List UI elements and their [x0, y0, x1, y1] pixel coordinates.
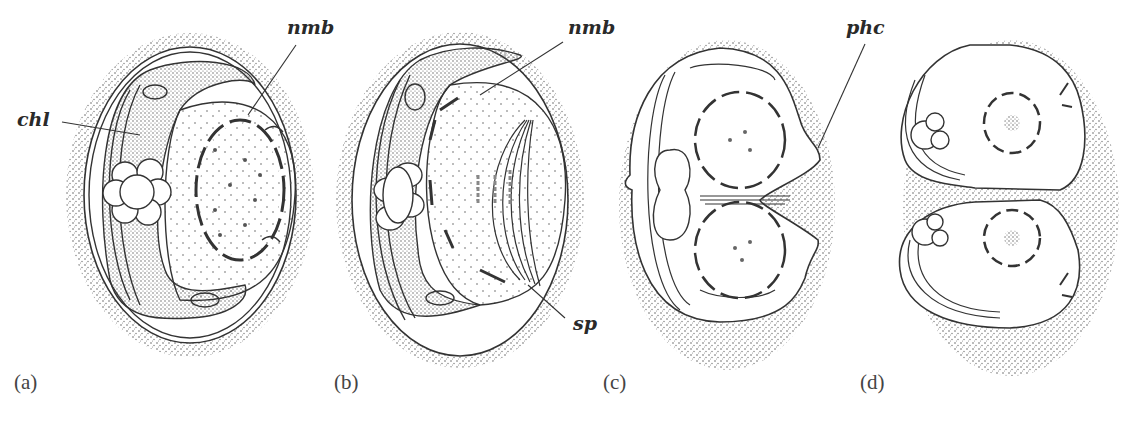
label-sp: sp	[573, 312, 597, 334]
label-phc: phc	[846, 16, 885, 38]
panel-label-d: (d)	[860, 370, 885, 395]
cell-drawings	[0, 0, 1122, 423]
cell-d	[900, 40, 1119, 376]
panel-label-b: (b)	[334, 370, 359, 395]
label-nmb-a: nmb	[287, 16, 334, 38]
label-chl: chl	[17, 108, 50, 130]
label-nmb-b: nmb	[568, 16, 615, 38]
cell-a	[66, 33, 314, 357]
cell-b	[336, 32, 584, 368]
cell-c	[619, 40, 835, 370]
panel-label-c: (c)	[603, 370, 626, 395]
pyrenoid-icon	[653, 149, 690, 240]
pyrenoid-icon	[103, 159, 171, 225]
cell-division-figure: chl nmb nmb sp phc (a) (b) (c) (d)	[0, 0, 1122, 423]
panel-label-a: (a)	[14, 370, 37, 395]
